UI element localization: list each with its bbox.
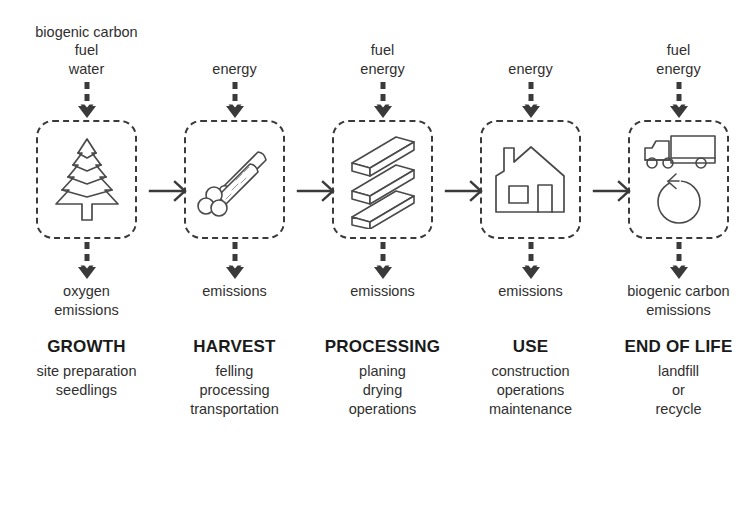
input-line: fuel <box>667 41 690 60</box>
stage-processing-outputs: emissions <box>350 281 414 326</box>
stage-title: HARVEST <box>190 336 279 358</box>
truck-recycle-icon <box>638 130 720 230</box>
output-line: emissions <box>202 282 266 301</box>
output-arrow-growth <box>74 239 100 281</box>
stage-end-of-life-outputs: biogenic carbon emissions <box>627 281 729 326</box>
input-arrow-processing <box>370 80 396 120</box>
stage-harvest-box <box>184 120 285 239</box>
stage-processing-caption: PROCESSING planing drying operations <box>325 336 440 419</box>
activity-line: operations <box>325 400 440 419</box>
lifecycle-diagram: biogenic carbon fuel water <box>0 0 749 511</box>
stage-end-of-life-caption: END OF LIFE landfill or recycle <box>625 336 733 419</box>
activity-line: drying <box>325 381 440 400</box>
stage-use-inputs: energy <box>508 0 552 80</box>
stage-growth-inputs: biogenic carbon fuel water <box>35 0 137 80</box>
activity-line: operations <box>489 381 572 400</box>
output-arrow-end-of-life <box>666 239 692 281</box>
activity-line: landfill <box>625 362 733 381</box>
output-line: emissions <box>350 282 414 301</box>
pine-tree-icon <box>49 134 125 226</box>
activity-line: processing <box>190 381 279 400</box>
activity-line: seedlings <box>37 381 137 400</box>
input-line: energy <box>656 60 700 79</box>
input-arrow-end-of-life <box>666 80 692 120</box>
stage-end-of-life: fuel energy <box>610 0 747 511</box>
stage-activities: landfill or recycle <box>625 362 733 419</box>
input-arrow-use <box>518 80 544 120</box>
stage-harvest-outputs: emissions <box>202 281 266 326</box>
logs-icon <box>192 140 278 220</box>
stage-harvest-inputs: energy <box>212 0 256 80</box>
stage-activities: felling processing transportation <box>190 362 279 419</box>
activity-line: or <box>625 381 733 400</box>
output-arrow-use <box>518 239 544 281</box>
stage-title: USE <box>489 336 572 358</box>
stage-harvest-caption: HARVEST felling processing transportatio… <box>190 336 279 419</box>
input-arrow-harvest <box>222 80 248 120</box>
input-line: energy <box>360 60 404 79</box>
stage-growth-outputs: oxygen emissions <box>54 281 118 326</box>
input-line: fuel <box>75 41 98 60</box>
output-line: oxygen <box>54 282 118 301</box>
stage-processing-inputs: fuel energy <box>360 0 404 80</box>
stage-activities: site preparation seedlings <box>37 362 137 400</box>
stage-activities: planing drying operations <box>325 362 440 419</box>
output-line: biogenic carbon <box>627 282 729 301</box>
input-line: fuel <box>371 41 394 60</box>
stage-title: PROCESSING <box>325 336 440 358</box>
stage-growth-box <box>36 120 137 239</box>
input-arrow-growth <box>74 80 100 120</box>
input-line: energy <box>212 60 256 79</box>
output-line: emissions <box>627 301 729 320</box>
lumber-planks-icon <box>344 131 422 229</box>
activity-line: site preparation <box>37 362 137 381</box>
activity-line: planing <box>325 362 440 381</box>
stage-title: END OF LIFE <box>625 336 733 358</box>
output-arrow-harvest <box>222 239 248 281</box>
input-line: water <box>69 60 104 79</box>
output-line: emissions <box>498 282 562 301</box>
stage-processing-box <box>332 120 433 239</box>
house-icon <box>490 142 572 218</box>
stage-processing: fuel energy <box>314 0 451 511</box>
stage-growth-caption: GROWTH site preparation seedlings <box>37 336 137 400</box>
stage-use-caption: USE construction operations maintenance <box>489 336 572 419</box>
stage-use-outputs: emissions <box>498 281 562 326</box>
stage-growth: biogenic carbon fuel water <box>18 0 155 511</box>
activity-line: recycle <box>625 400 733 419</box>
stage-title: GROWTH <box>37 336 137 358</box>
activity-line: maintenance <box>489 400 572 419</box>
stage-end-of-life-inputs: fuel energy <box>656 0 700 80</box>
input-line: energy <box>508 60 552 79</box>
activity-line: felling <box>190 362 279 381</box>
input-line: biogenic carbon <box>35 23 137 42</box>
stage-harvest: energy <box>166 0 303 511</box>
stage-activities: construction operations maintenance <box>489 362 572 419</box>
stage-end-of-life-box <box>628 120 729 239</box>
activity-line: transportation <box>190 400 279 419</box>
output-line: emissions <box>54 301 118 320</box>
activity-line: construction <box>489 362 572 381</box>
output-arrow-processing <box>370 239 396 281</box>
stage-use-box <box>480 120 581 239</box>
stage-use: energy <box>462 0 599 511</box>
